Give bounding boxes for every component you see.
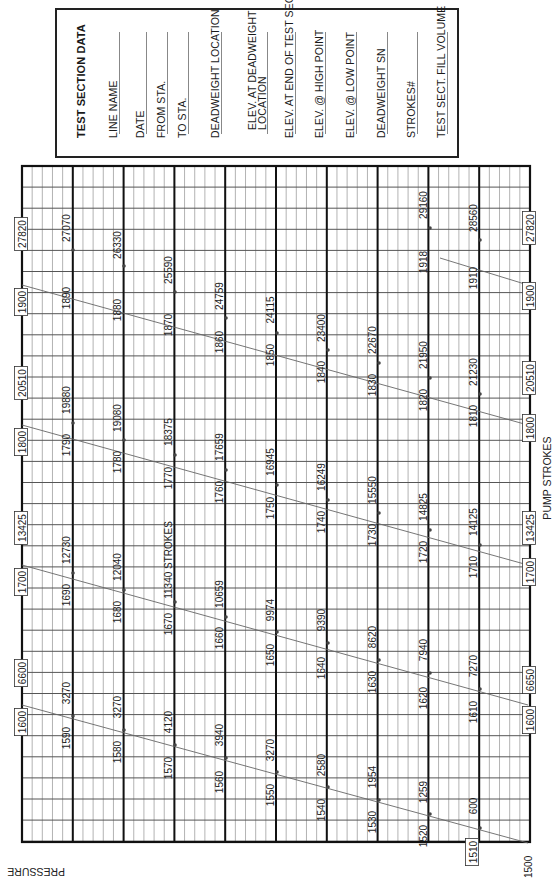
pressure-axis-title: PRESSURE <box>7 866 65 878</box>
pressure-value-label: 1690 <box>61 583 72 606</box>
data-point-dot <box>478 392 482 396</box>
pressure-value-label: 1820 <box>418 388 429 411</box>
svg-text:1700: 1700 <box>17 570 28 593</box>
pressure-value-label: 1890 <box>61 286 72 309</box>
data-point-dot <box>71 421 75 425</box>
svg-text:1550: 1550 <box>265 783 276 806</box>
svg-text:1520: 1520 <box>418 824 429 847</box>
data-point-dot <box>173 743 177 747</box>
left-axis-label: 6600 <box>15 659 28 686</box>
svg-text:1760: 1760 <box>214 480 225 503</box>
svg-text:3940: 3940 <box>214 723 225 746</box>
svg-text:24759: 24759 <box>214 282 225 310</box>
svg-text:3270: 3270 <box>61 681 72 704</box>
left-axis-label: 13425 <box>15 512 28 545</box>
pressure-value-label: 1560 <box>214 770 225 793</box>
data-point-dot <box>326 641 330 645</box>
strokes-value-label: 3940 <box>214 723 225 746</box>
left-axis-label: 1800 <box>15 428 28 455</box>
strokes-value-label: 7940 <box>418 638 429 661</box>
svg-text:1790: 1790 <box>61 433 72 456</box>
svg-text:16945: 16945 <box>265 448 276 476</box>
right-axis-label: 1600 <box>523 706 536 733</box>
svg-text:28560: 28560 <box>468 204 479 232</box>
pump-strokes-axis-title: PUMP STROKES <box>541 436 553 519</box>
pressure-value-label: 1520 <box>418 824 429 847</box>
svg-text:16249: 16249 <box>316 463 327 491</box>
svg-text:1610: 1610 <box>468 700 479 723</box>
pressure-value-label: 1810 <box>468 404 479 427</box>
pressure-value-label: 1870 <box>163 313 174 336</box>
data-point-dot <box>275 770 279 774</box>
svg-text:26330: 26330 <box>112 231 123 259</box>
svg-text:25590: 25590 <box>163 256 174 284</box>
strokes-value-label: 1954 <box>367 765 378 788</box>
pressure-value-label: 1850 <box>265 343 276 366</box>
right-axis-label: 6650 <box>523 666 536 693</box>
svg-text:14825: 14825 <box>418 493 429 521</box>
pressure-value-label: 1660 <box>214 626 225 649</box>
svg-text:14125: 14125 <box>468 508 479 536</box>
data-point-dot <box>428 812 432 816</box>
svg-text:13425: 13425 <box>17 514 28 542</box>
left-axis-label: 27820 <box>15 218 28 251</box>
pressure-value-label: 1840 <box>316 360 327 383</box>
svg-text:12730: 12730 <box>61 536 72 564</box>
svg-text:1540: 1540 <box>316 798 327 821</box>
strokes-value-label: 9974 <box>265 598 276 621</box>
svg-text:1750: 1750 <box>265 496 276 519</box>
svg-text:13425: 13425 <box>525 514 536 542</box>
svg-text:1910: 1910 <box>468 266 479 289</box>
data-point-dot <box>71 714 75 718</box>
data-point-dot <box>428 226 432 230</box>
data-point-dot <box>173 453 177 457</box>
data-point-dot <box>122 728 126 732</box>
strokes-value-label: 9390 <box>316 608 327 631</box>
data-point-dot <box>275 483 279 487</box>
svg-text:1600: 1600 <box>525 708 536 731</box>
svg-text:20510: 20510 <box>525 364 536 392</box>
data-point-dot <box>478 826 482 830</box>
right-axis-label: 13425 <box>523 512 536 545</box>
strokes-value-label: 17659 <box>214 433 225 461</box>
svg-text:1954: 1954 <box>367 765 378 788</box>
svg-text:1600: 1600 <box>17 710 28 733</box>
pressure-value-label: 1860 <box>214 330 225 353</box>
svg-text:19080: 19080 <box>112 404 123 432</box>
svg-text:1810: 1810 <box>468 404 479 427</box>
svg-text:1710: 1710 <box>468 555 479 578</box>
pressure-value-label: 1770 <box>163 466 174 489</box>
strokes-value-label: 28560 <box>468 204 479 232</box>
strokes-value-label: 19880 <box>61 386 72 414</box>
strokes-value-label: 22670 <box>367 326 378 354</box>
pressure-value-label: 1570 <box>163 756 174 779</box>
svg-text:6650: 6650 <box>525 668 536 691</box>
data-point-dot <box>71 248 75 252</box>
data-point-dot <box>326 348 330 352</box>
left-axis-label: 1900 <box>15 288 28 315</box>
data-point-dot <box>377 361 381 365</box>
svg-text:18375: 18375 <box>163 418 174 446</box>
strokes-value-label: 16945 <box>265 448 276 476</box>
data-point-dot <box>122 264 126 268</box>
right-axis-label: 27820 <box>523 212 536 245</box>
svg-text:1700: 1700 <box>525 560 536 583</box>
svg-text:1840: 1840 <box>316 360 327 383</box>
strokes-value-label: 24759 <box>214 282 225 310</box>
svg-text:1510: 1510 <box>468 840 479 863</box>
left-axis-label: 1600 <box>15 708 28 735</box>
origin-pressure-label: 1500 <box>523 855 534 878</box>
svg-text:3270: 3270 <box>112 695 123 718</box>
strokes-value-label: 7270 <box>468 654 479 677</box>
svg-text:1890: 1890 <box>61 286 72 309</box>
svg-text:7270: 7270 <box>468 654 479 677</box>
strokes-value-label: 14825 <box>418 493 429 521</box>
strokes-value-label: 600 <box>468 797 479 814</box>
svg-text:27070: 27070 <box>61 214 72 242</box>
data-point-dot <box>173 600 177 604</box>
strokes-value-label: 10659 <box>214 580 225 608</box>
pressure-value-label: 1760 <box>214 480 225 503</box>
pressure-value-label: 1510 <box>466 838 479 865</box>
data-point-dot <box>122 438 126 442</box>
strokes-value-label: 14125 <box>468 508 479 536</box>
